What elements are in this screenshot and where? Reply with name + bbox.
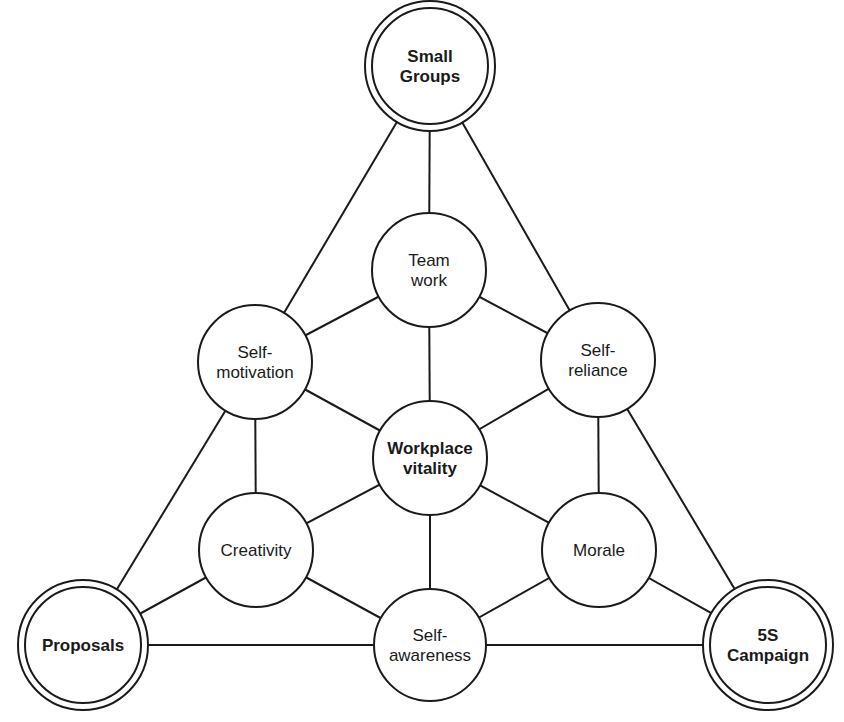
node-label: Small xyxy=(407,47,452,66)
node-label: Team xyxy=(408,251,450,270)
node-label: Proposals xyxy=(42,636,124,655)
node-label: Campaign xyxy=(727,646,809,665)
node-label: Self- xyxy=(413,626,448,645)
node-label: vitality xyxy=(403,459,457,478)
node-small-groups: SmallGroups xyxy=(365,1,495,131)
node-workplace-vitality: Workplacevitality xyxy=(373,401,487,515)
node-label: awareness xyxy=(389,646,471,665)
node-five-s-campaign: 5SCampaign xyxy=(703,580,833,710)
node-proposals: Proposals xyxy=(18,580,148,710)
node-circle xyxy=(372,213,486,327)
node-label: Groups xyxy=(400,67,460,86)
node-self-motivation: Self-motivation xyxy=(198,305,312,419)
node-label: Self- xyxy=(238,343,273,362)
inner-ring xyxy=(372,8,488,124)
node-label: motivation xyxy=(216,363,293,382)
node-label: Self- xyxy=(581,341,616,360)
node-label: Workplace xyxy=(387,439,473,458)
node-circle xyxy=(373,401,487,515)
node-circle xyxy=(198,305,312,419)
node-circle xyxy=(541,303,655,417)
concept-nodes: SmallGroupsTeamworkSelf-motivationSelf-r… xyxy=(18,1,833,710)
node-label: Creativity xyxy=(221,541,292,560)
node-label: Morale xyxy=(573,541,625,560)
node-label: work xyxy=(410,271,447,290)
node-self-reliance: Self-reliance xyxy=(541,303,655,417)
connector-lines xyxy=(83,66,768,645)
node-label: 5S xyxy=(758,626,779,645)
node-teamwork: Teamwork xyxy=(372,213,486,327)
node-label: reliance xyxy=(568,361,628,380)
inner-ring xyxy=(710,587,826,703)
workplace-vitality-diagram: SmallGroupsTeamworkSelf-motivationSelf-r… xyxy=(0,0,844,722)
node-self-awareness: Self-awareness xyxy=(374,589,486,701)
node-circle xyxy=(374,589,486,701)
node-morale: Morale xyxy=(542,493,656,607)
node-creativity: Creativity xyxy=(199,493,313,607)
